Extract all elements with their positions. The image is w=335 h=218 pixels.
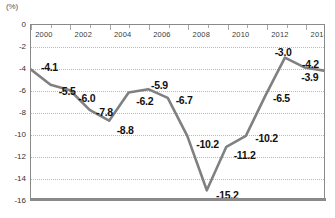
y-axis-tick-label: -8: [19, 108, 26, 117]
data-point-label: -10.2: [255, 132, 277, 144]
data-point-label: -8.8: [117, 124, 134, 136]
data-point-label: -6.5: [273, 92, 290, 104]
plot-bottom-accent: [30, 198, 326, 201]
plot-area: 20002002200420062008201020122014 -4.1-5.…: [30, 24, 325, 200]
series-polyline: [31, 58, 324, 191]
data-point-label: -6.7: [176, 94, 193, 106]
y-axis-tick-label: -16: [14, 196, 26, 205]
data-point-label: -11.2: [234, 149, 256, 161]
line-chart: (%) 0-2-4-6-8-10-12-14-16 20002002200420…: [0, 0, 335, 218]
data-point-label: -6.0: [78, 92, 95, 104]
data-point-label: -3.9: [301, 71, 318, 83]
data-point-label: -6.2: [136, 95, 153, 107]
data-point-label: -7.8: [96, 106, 113, 118]
y-axis-tick-label: 0: [22, 20, 26, 29]
y-axis-tick-label: -14: [14, 174, 26, 183]
y-axis-tick-label: -2: [19, 42, 26, 51]
data-point-label: -4.2: [302, 58, 319, 70]
y-axis-labels: 0-2-4-6-8-10-12-14-16: [0, 0, 30, 218]
data-point-label: -3.0: [275, 46, 292, 58]
y-axis-tick-label: -10: [14, 130, 26, 139]
y-axis-tick-label: -4: [19, 64, 26, 73]
y-axis-tick-label: -12: [14, 152, 26, 161]
y-axis-tick-label: -6: [19, 86, 26, 95]
data-point-label: -5.5: [59, 85, 76, 97]
data-point-label: -10.2: [196, 138, 218, 150]
data-point-label: -4.1: [41, 61, 58, 73]
data-point-label: -5.9: [151, 79, 168, 91]
